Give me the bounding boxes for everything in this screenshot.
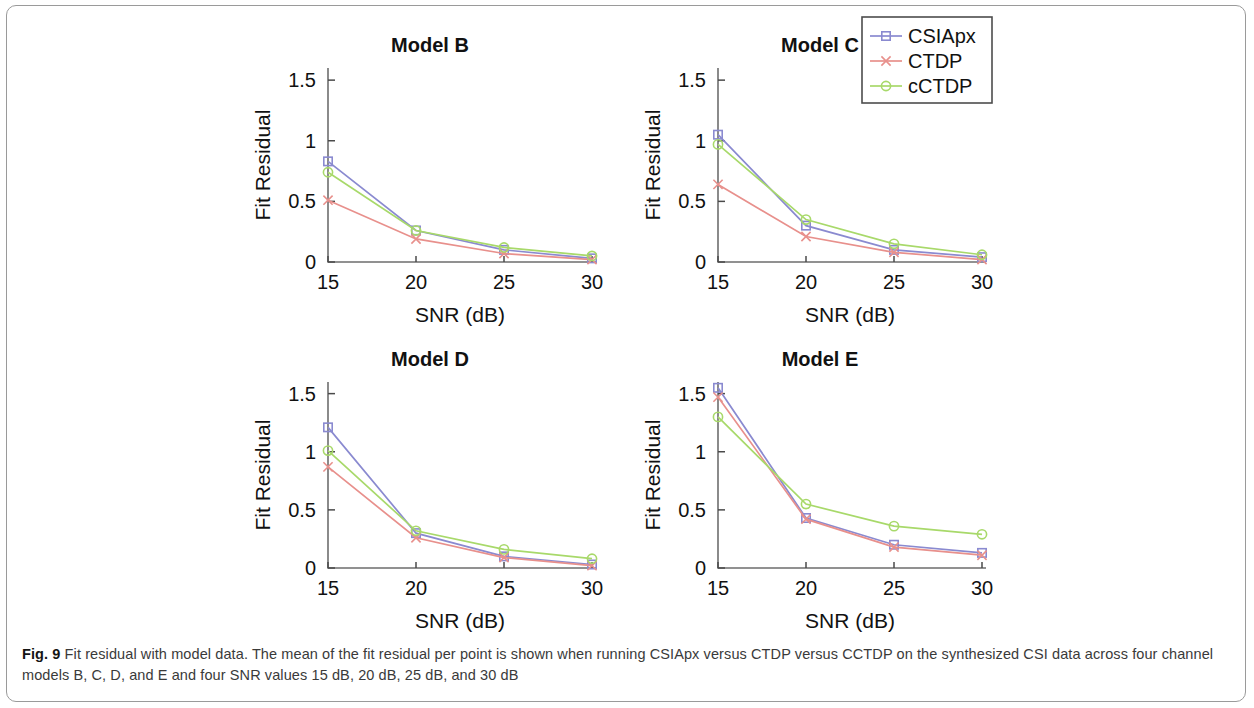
y-tick-label: 0.5 xyxy=(288,499,316,521)
series-line xyxy=(328,451,592,559)
figure-caption-text: Fit residual with model data. The mean o… xyxy=(22,646,1213,683)
series-ctdp xyxy=(713,180,986,264)
legend-label: CSIApx xyxy=(908,25,976,47)
panel-title: Model C xyxy=(781,34,859,56)
y-tick-label: 0.5 xyxy=(678,190,706,212)
x-tick-label: 25 xyxy=(493,577,515,599)
y-tick-label: 1 xyxy=(305,441,316,463)
legend-label: CTDP xyxy=(908,50,962,72)
x-tick-label: 15 xyxy=(317,577,339,599)
x-tick-label: 20 xyxy=(405,577,427,599)
x-axis-label: SNR (dB) xyxy=(805,609,895,632)
figure-caption-label: Fig. 9 xyxy=(22,646,60,662)
x-tick-label: 20 xyxy=(795,577,817,599)
series-line xyxy=(718,388,982,553)
y-axis-label: Fit Residual xyxy=(641,110,664,221)
series-line xyxy=(328,427,592,564)
x-tick-label: 30 xyxy=(971,271,993,293)
multi-panel-line-chart: Model B00.511.515202530SNR (dB)Fit Resid… xyxy=(0,0,1254,632)
figure-plot-area: Model B00.511.515202530SNR (dB)Fit Resid… xyxy=(0,0,1254,632)
x-tick-label: 25 xyxy=(493,271,515,293)
x-tick-label: 30 xyxy=(971,577,993,599)
y-tick-label: 0 xyxy=(305,557,316,579)
axis-spines xyxy=(718,382,986,568)
y-tick-label: 1.5 xyxy=(288,383,316,405)
series-line xyxy=(328,161,592,258)
y-tick-label: 0.5 xyxy=(288,190,316,212)
panel-title: Model D xyxy=(391,348,469,370)
x-tick-label: 25 xyxy=(883,271,905,293)
y-tick-label: 0 xyxy=(695,251,706,273)
y-tick-label: 1.5 xyxy=(678,383,706,405)
figure-caption: Fig. 9 Fit residual with model data. The… xyxy=(22,644,1222,686)
series-ctdp xyxy=(713,393,986,560)
y-tick-label: 1 xyxy=(695,130,706,152)
y-tick-label: 1.5 xyxy=(288,69,316,91)
x-tick-label: 20 xyxy=(795,271,817,293)
y-tick-label: 0.5 xyxy=(678,499,706,521)
y-axis-label: Fit Residual xyxy=(641,420,664,531)
series-line xyxy=(328,200,592,259)
y-tick-label: 1.5 xyxy=(678,69,706,91)
x-tick-label: 15 xyxy=(707,577,729,599)
x-tick-label: 15 xyxy=(317,271,339,293)
panel-model-d: Model D00.511.515202530SNR (dB)Fit Resid… xyxy=(251,348,603,632)
x-axis-label: SNR (dB) xyxy=(805,303,895,326)
legend-label: cCTDP xyxy=(908,75,972,97)
y-tick-label: 1 xyxy=(695,441,706,463)
series-line xyxy=(328,172,592,256)
series-line xyxy=(328,467,592,566)
x-tick-label: 15 xyxy=(707,271,729,293)
y-axis-label: Fit Residual xyxy=(251,110,274,221)
axis-spines xyxy=(328,68,596,262)
x-tick-label: 30 xyxy=(581,271,603,293)
y-tick-label: 0 xyxy=(305,251,316,273)
x-tick-label: 30 xyxy=(581,577,603,599)
series-line xyxy=(718,417,982,534)
panel-model-b: Model B00.511.515202530SNR (dB)Fit Resid… xyxy=(251,34,603,326)
x-axis-label: SNR (dB) xyxy=(415,609,505,632)
series-line xyxy=(718,184,982,259)
x-axis-label: SNR (dB) xyxy=(415,303,505,326)
series-csiapx xyxy=(714,130,986,261)
chart-legend: CSIApxCTDPcCTDP xyxy=(862,17,992,103)
y-axis-label: Fit Residual xyxy=(251,420,274,531)
series-cctdp xyxy=(713,412,986,539)
series-ctdp xyxy=(323,196,596,265)
x-tick-label: 25 xyxy=(883,577,905,599)
y-tick-label: 0 xyxy=(695,557,706,579)
panel-title: Model B xyxy=(391,34,469,56)
y-tick-label: 1 xyxy=(305,130,316,152)
series-line xyxy=(718,135,982,257)
series-cctdp xyxy=(323,446,596,563)
panel-title: Model E xyxy=(782,348,859,370)
panel-model-e: Model E00.511.515202530SNR (dB)Fit Resid… xyxy=(641,348,993,632)
series-cctdp xyxy=(713,140,986,260)
x-tick-label: 20 xyxy=(405,271,427,293)
